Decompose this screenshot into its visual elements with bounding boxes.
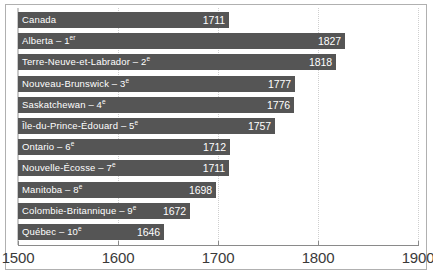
bar-value-label: 1646: [137, 224, 160, 240]
bar-category-label: Terre-Neuve-et-Labrador – 2e: [22, 54, 150, 70]
axis-tick-1500: [18, 241, 19, 246]
ordinal-superscript: e: [125, 76, 129, 83]
bar-category-label: Manitoba – 8e: [22, 182, 83, 198]
axis-tick-label-1700: 1700: [202, 249, 235, 266]
ordinal-superscript: e: [102, 98, 106, 105]
bar-row: Nouvelle-Écosse – 7e1711: [18, 160, 229, 176]
bar-row: Alberta – 1er1827: [18, 33, 345, 49]
ordinal-superscript: e: [112, 161, 116, 168]
bar-row: Terre-Neuve-et-Labrador – 2e1818: [18, 54, 336, 70]
gridline-1900: [418, 8, 419, 245]
axis-tick-label-1800: 1800: [302, 249, 335, 266]
axis-tick-label-1600: 1600: [102, 249, 135, 266]
bar-category-label: Nouvelle-Écosse – 7e: [22, 160, 116, 176]
bar-value-label: 1711: [203, 12, 225, 28]
bar-value-label: 1712: [203, 139, 226, 155]
bar-category-label: Canada: [22, 12, 56, 28]
ordinal-superscript: e: [133, 204, 137, 211]
bar-row: Île-du-Prince-Édouard – 5e1757: [18, 118, 275, 134]
bar-value-label: 1672: [163, 203, 186, 219]
ordinal-superscript: e: [71, 140, 75, 147]
axis-tick-label-1500: 1500: [2, 249, 35, 266]
ordinal-superscript: e: [78, 225, 82, 232]
bar-row: Québec – 10e1646: [18, 224, 164, 240]
axis-tick-label-1900: 1900: [402, 249, 433, 266]
ordinal-superscript: er: [70, 34, 76, 41]
bar-category-label: Île-du-Prince-Édouard – 5e: [22, 118, 138, 134]
bar-row: Canada1711: [18, 12, 229, 28]
bar-category-label: Alberta – 1er: [22, 33, 76, 49]
bar-category-label: Saskatchewan – 4e: [22, 97, 106, 113]
bar-category-label: Nouveau-Brunswick – 3e: [22, 76, 129, 92]
bar-row: Manitoba – 8e1698: [18, 182, 216, 198]
ordinal-superscript: e: [135, 119, 139, 126]
bar-chart: Canada1711Alberta – 1er1827Terre-Neuve-e…: [0, 0, 433, 278]
bar-row: Colombie-Britannique – 9e1672: [18, 203, 190, 219]
axis-tick-1800: [318, 241, 319, 246]
bar-value-label: 1776: [267, 97, 290, 113]
bar-value-label: 1698: [189, 182, 212, 198]
bar-value-label: 1711: [203, 160, 225, 176]
bar-category-label: Québec – 10e: [22, 224, 82, 240]
plot-area: Canada1711Alberta – 1er1827Terre-Neuve-e…: [0, 0, 433, 278]
axis-tick-1600: [118, 241, 119, 246]
bar-value-label: 1757: [248, 118, 271, 134]
bar-row: Saskatchewan – 4e1776: [18, 97, 294, 113]
axis-tick-1700: [218, 241, 219, 246]
bar-value-label: 1777: [268, 76, 291, 92]
axis-tick-1900: [418, 241, 419, 246]
ordinal-superscript: e: [79, 182, 83, 189]
bar-value-label: 1818: [309, 54, 332, 70]
bar-row: Nouveau-Brunswick – 3e1777: [18, 76, 295, 92]
bar-value-label: 1827: [318, 33, 341, 49]
ordinal-superscript: e: [146, 55, 150, 62]
bar-category-label: Colombie-Britannique – 9e: [22, 203, 137, 219]
bar-category-label: Ontario – 6e: [22, 139, 74, 155]
bar-row: Ontario – 6e1712: [18, 139, 230, 155]
